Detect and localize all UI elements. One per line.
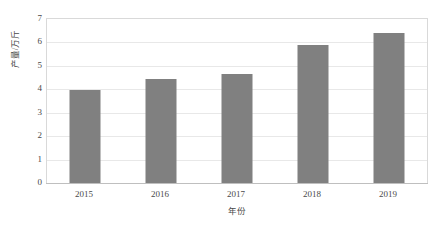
x-tick-label: 2018 bbox=[303, 188, 321, 200]
bar-slot bbox=[123, 19, 199, 183]
y-tick-label: 5 bbox=[24, 60, 42, 69]
y-tick-label: 7 bbox=[24, 14, 42, 23]
y-axis-tick-labels: 01234567 bbox=[24, 18, 42, 184]
bar-slot bbox=[47, 19, 123, 183]
y-axis-title: 产量/万斤 bbox=[8, 14, 22, 84]
x-tick-label: 2019 bbox=[379, 188, 397, 200]
x-tick-label: 2015 bbox=[75, 188, 93, 200]
bar-2017[interactable] bbox=[222, 74, 253, 183]
bar-slot bbox=[351, 19, 427, 183]
bar-2015[interactable] bbox=[70, 90, 101, 183]
y-tick-label: 6 bbox=[24, 37, 42, 46]
plot-area bbox=[46, 18, 428, 184]
bar-2018[interactable] bbox=[298, 45, 329, 183]
x-axis-title: 年份 bbox=[46, 205, 428, 217]
x-axis-line bbox=[46, 183, 428, 184]
bar-chart-figure: 产量/万斤 01234567 20152016201720182019 年份 bbox=[0, 0, 440, 230]
bar-slot bbox=[199, 19, 275, 183]
y-tick-label: 3 bbox=[24, 107, 42, 116]
y-tick-label: 2 bbox=[24, 131, 42, 140]
bar-slot bbox=[275, 19, 351, 183]
bars-layer bbox=[47, 19, 427, 183]
bar-2019[interactable] bbox=[374, 33, 405, 183]
y-tick-label: 0 bbox=[24, 178, 42, 187]
y-tick-label: 1 bbox=[24, 154, 42, 163]
x-tick-label: 2017 bbox=[227, 188, 245, 200]
x-tick-label: 2016 bbox=[151, 188, 169, 200]
bar-2016[interactable] bbox=[146, 79, 177, 183]
x-axis-tick-labels: 20152016201720182019 bbox=[46, 188, 428, 202]
y-tick-label: 4 bbox=[24, 84, 42, 93]
